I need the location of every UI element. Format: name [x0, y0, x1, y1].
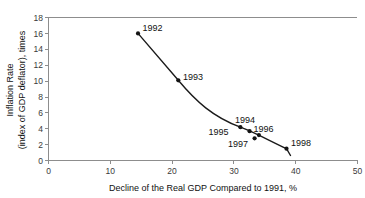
data-point-1997 [253, 136, 257, 140]
point-label-1993: 1993 [183, 72, 203, 82]
y-tick-label: 0 [38, 156, 43, 166]
point-label-1992: 1992 [143, 23, 163, 33]
data-point-1996 [257, 133, 261, 137]
point-label-1994: 1994 [235, 115, 255, 125]
y-tick-label: 14 [34, 44, 44, 54]
x-tick-label: 30 [229, 166, 239, 176]
data-point-1995 [248, 129, 252, 133]
data-point-1994 [238, 125, 242, 129]
y-axis-title-line2: (index of GDP deflator), times [17, 30, 27, 149]
x-axis-tick-labels: 0 10 20 30 40 50 [46, 166, 362, 176]
y-tick-label: 8 [38, 92, 43, 102]
y-axis-ticks [45, 18, 48, 161]
chart-plot-area: 18 16 14 12 10 8 6 4 2 0 0 10 20 30 40 [0, 0, 365, 198]
y-tick-label: 18 [34, 13, 44, 23]
y-tick-label: 4 [38, 124, 43, 134]
y-tick-label: 2 [38, 140, 43, 150]
x-tick-label: 0 [46, 166, 51, 176]
x-tick-label: 40 [291, 166, 301, 176]
y-tick-label: 12 [34, 60, 44, 70]
y-axis-tick-labels: 18 16 14 12 10 8 6 4 2 0 [34, 13, 44, 166]
y-axis-title-line1: Inflation Rate [5, 63, 15, 116]
series-line [138, 33, 291, 155]
point-label-1997: 1997 [228, 139, 248, 149]
point-label-1998: 1998 [291, 138, 311, 148]
y-tick-label: 16 [34, 29, 44, 39]
data-point-1992 [136, 31, 140, 35]
data-point-1993 [176, 78, 180, 82]
point-label-1996: 1996 [254, 124, 274, 134]
data-point-1998 [284, 147, 288, 151]
x-tick-label: 10 [106, 166, 116, 176]
point-label-1995: 1995 [209, 127, 229, 137]
x-tick-label: 50 [353, 166, 363, 176]
series-point-labels: 1992 1993 1994 1995 1996 1997 1998 [143, 23, 312, 149]
x-axis-title: Decline of the Real GDP Compared to 1991… [109, 183, 297, 193]
chart-container: 18 16 14 12 10 8 6 4 2 0 0 10 20 30 40 [0, 0, 365, 198]
y-tick-label: 6 [38, 108, 43, 118]
y-tick-label: 10 [34, 76, 44, 86]
x-tick-label: 20 [167, 166, 177, 176]
